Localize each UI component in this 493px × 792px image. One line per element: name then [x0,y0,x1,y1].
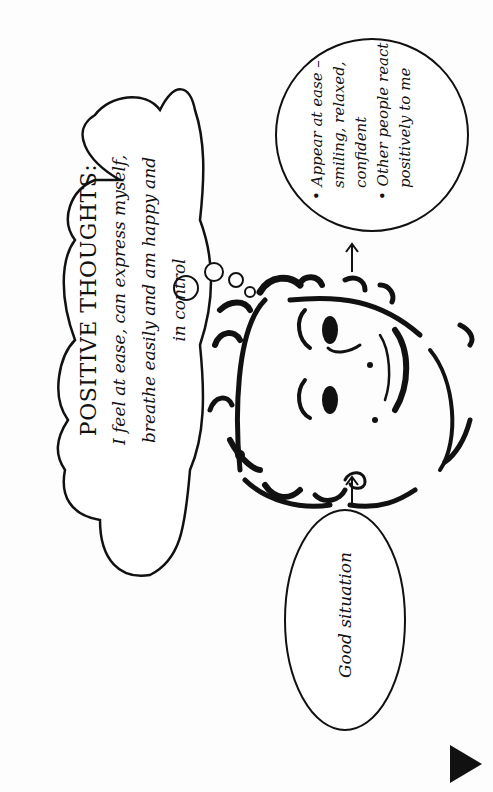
outcome-line: confident [350,40,372,200]
diagram-page: POSITIVE THOUGHTS: I feel at ease, can e… [0,0,493,792]
outcome-item: • Appear at ease – [306,40,328,200]
arrow-up-icon [346,477,358,503]
cloud-line: I feel at ease, can express myself, [104,130,134,470]
cloud-line: in control [164,130,194,470]
cloud-title: POSITIVE THOUGHTS: [74,130,104,470]
outcome-line: positively to me [394,40,416,200]
play-triangle-icon[interactable] [450,745,482,783]
bubble-small [229,273,243,287]
outcomes-text: • Appear at ease – smiling, relaxed, con… [306,40,416,200]
face-illustration [210,277,472,506]
cloud-line: breathe easily and am happy and [134,130,164,470]
outcome-line: smiling, relaxed, [328,40,350,200]
arrow-up-icon [346,244,358,272]
situation-label: Good situation [335,558,355,678]
bubble-medium [205,263,223,281]
thought-cloud-text: POSITIVE THOUGHTS: I feel at ease, can e… [74,130,194,470]
outcome-item: • Other people react [372,40,394,200]
bubble-tiny [245,287,255,297]
